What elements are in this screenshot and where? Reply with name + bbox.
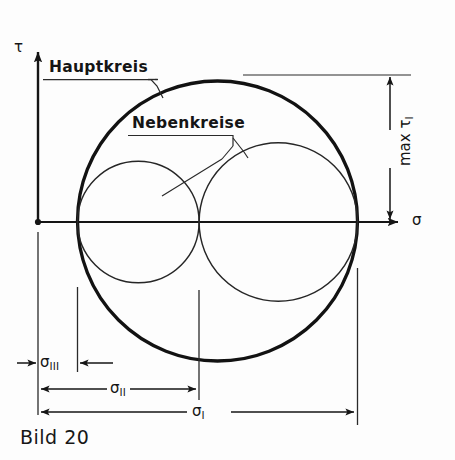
hauptkreis-leader [43, 80, 163, 99]
dimension-subscript-max-tau: I [403, 116, 415, 119]
dimension-symbol-sigma-2: σ [110, 379, 120, 397]
axis-label-tau: τ [14, 40, 23, 55]
origin-dot [35, 219, 41, 225]
dimension-label-sigma-1: σI [192, 404, 205, 420]
dimension-symbol-sigma-3: σ [40, 353, 50, 371]
dimension-max-tau-1 [243, 75, 411, 219]
dimension-label-max-tau-1: max τI [398, 116, 414, 166]
dimension-symbol-sigma-1: σ [192, 402, 202, 420]
figure-mohr-circle: τ σ Hauptkreis Nebenkreise max τI σIII σ… [0, 0, 455, 460]
dimension-subscript-sigma-1: I [202, 409, 205, 421]
axis-group [35, 52, 398, 225]
dimension-label-sigma-2: σII [110, 381, 126, 397]
figure-caption: Bild 20 [20, 428, 89, 447]
dimension-subscript-sigma-3: III [50, 360, 60, 372]
annotation-nebenkreise: Nebenkreise [132, 116, 245, 132]
axis-label-sigma: σ [412, 213, 422, 228]
dimension-subscript-sigma-2: II [120, 386, 127, 398]
annotation-hauptkreis: Hauptkreis [49, 60, 148, 76]
dimension-symbol-max-tau: max τ [396, 120, 414, 166]
dimension-label-sigma-3: σIII [40, 355, 59, 371]
